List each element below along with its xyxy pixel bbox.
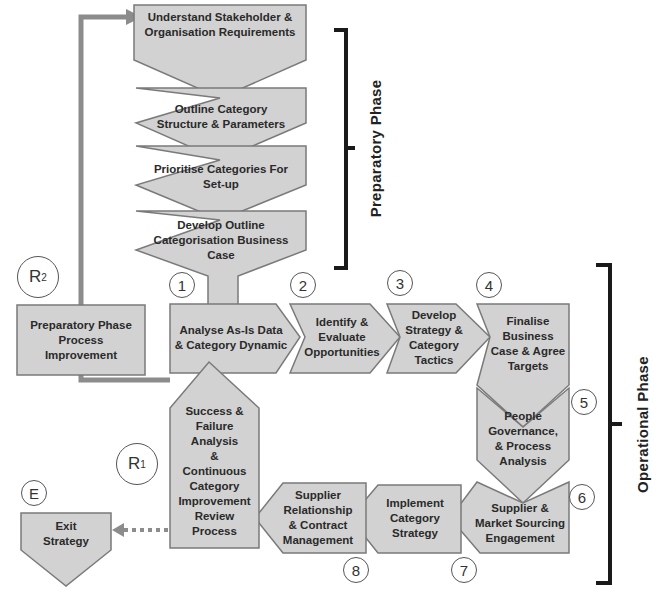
prep-improvement-step: Preparatory PhaseProcessImprovement xyxy=(17,305,145,375)
step-8-marker: 8 xyxy=(343,557,369,583)
step-6-marker: 6 xyxy=(569,484,595,510)
operational-phase-bracket xyxy=(596,265,622,583)
exit-marker: E xyxy=(21,480,47,506)
operational-phase-label: Operational Phase xyxy=(634,335,651,515)
exit-strategy-step: ExitStrategy xyxy=(21,516,111,552)
step-6: Supplier &Market SourcingEngagement xyxy=(468,496,572,550)
preparatory-phase-bracket xyxy=(334,30,355,268)
step-8: SupplierRelationship& ContractManagement xyxy=(270,484,366,552)
step-4-marker: 4 xyxy=(476,272,502,298)
step-4: FinaliseBusinessCase & AgreeTargets xyxy=(482,312,574,376)
r1-marker: R1 xyxy=(116,443,158,485)
step-1: Analyse As-Is Data& Category Dynamic xyxy=(170,310,292,366)
prep-step-1: Understand Stakeholder &Organisation Req… xyxy=(134,8,306,42)
prep-step-4: Develop OutlineCategorisation BusinessCa… xyxy=(136,216,306,264)
preparatory-phase-label: Preparatory Phase xyxy=(367,74,384,224)
review-step: Success &FailureAnalysis &ContinuousCate… xyxy=(170,398,259,544)
exit-dotted-connector xyxy=(112,523,168,537)
step-1-marker: 1 xyxy=(169,272,195,298)
step-2: Identify &EvaluateOpportunities xyxy=(296,306,388,368)
prep-step-2: Outline CategoryStructure & Parameters xyxy=(136,100,306,134)
r2-marker: R2 xyxy=(17,256,59,298)
step-7: ImplementCategoryStrategy xyxy=(368,490,462,546)
step-2-marker: 2 xyxy=(290,272,316,298)
step-5-marker: 5 xyxy=(571,389,597,415)
step-3: DevelopStrategy &CategoryTactics xyxy=(394,306,474,370)
prep-step-3: Prioritise Categories ForSet-up xyxy=(136,160,306,194)
step-5: PeopleGovernance,& ProcessAnalysis xyxy=(477,408,569,470)
step-7-marker: 7 xyxy=(451,557,477,583)
step-3-marker: 3 xyxy=(387,270,413,296)
